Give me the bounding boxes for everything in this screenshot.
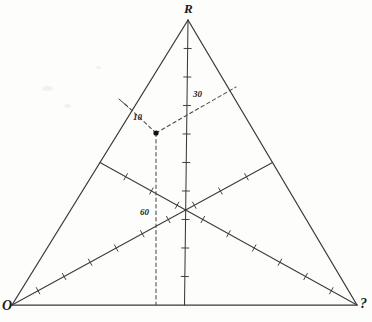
reading-label-10: 10: [133, 113, 142, 122]
vertex-label-bottom-left: O: [2, 299, 12, 313]
vertex-label-bottom-right: ?: [360, 297, 367, 311]
reading-label-60: 60: [140, 208, 149, 217]
median-tick: [114, 245, 117, 251]
median-tick: [219, 188, 222, 194]
median-tick: [330, 288, 333, 294]
median-tick: [304, 273, 307, 279]
vertex-label-top: R: [184, 2, 193, 15]
median-tick: [252, 245, 255, 251]
scan-speck: [96, 66, 101, 69]
median-tick: [227, 231, 230, 237]
ternary-diagram-figure: R O ? 10 30 60: [0, 0, 372, 322]
median-tick: [88, 259, 91, 265]
median-tick: [36, 288, 39, 294]
ternary-plot-canvas: [0, 0, 372, 322]
median-tick: [201, 216, 204, 222]
median-tick: [62, 273, 65, 279]
median-lines: [12, 20, 357, 305]
median-tick: [245, 174, 248, 180]
median-tick: [167, 216, 170, 222]
median-tick: [124, 174, 127, 180]
plotted-point-marker: [153, 130, 158, 135]
scan-speck: [42, 86, 53, 91]
median-tick: [141, 231, 144, 237]
reading-label-30: 30: [193, 90, 202, 99]
left-edge-reading-tick: [119, 99, 128, 107]
median-tick: [193, 202, 196, 208]
scan-speck: [64, 104, 71, 108]
median-tick: [150, 188, 153, 194]
median-tick: [278, 259, 281, 265]
median-tick: [175, 202, 178, 208]
data-point: [153, 130, 158, 135]
